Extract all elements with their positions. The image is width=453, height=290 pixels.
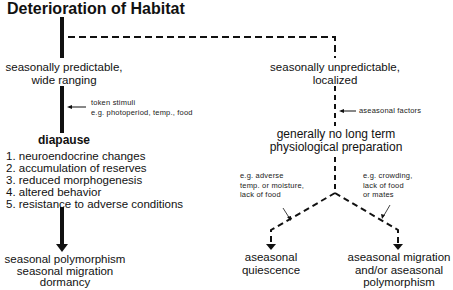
right-habitat-text: seasonally unpredictable, localized [268, 61, 402, 86]
split-left-dashed [271, 193, 335, 245]
aseasonal-arrowhead [339, 109, 344, 113]
feature-item: 5. resistance to adverse conditions [6, 198, 183, 210]
left-outcomes-text: seasonal polymorphism seasonal migration… [3, 254, 127, 289]
migration-outcome-text: aseasonal migration and/or aseasonal pol… [345, 251, 453, 289]
split-left-arrowhead [266, 244, 276, 250]
diapause-features-list: 1. neuroendocrine changes 2. accumulatio… [6, 150, 183, 210]
split-right-arrowhead [393, 244, 403, 250]
adverse-conditions-annotation: e.g. adverse temp. or moisture, lack of … [240, 171, 304, 200]
diapause-label: diapause [38, 134, 90, 147]
feature-item: 1. neuroendocrine changes [6, 150, 183, 162]
diagram-title: Deterioration of Habitat [7, 0, 185, 18]
right-response-text: generally no long term physiological pre… [258, 128, 414, 154]
outcome-arrowhead [56, 244, 68, 252]
dashed-branch-line [68, 37, 335, 58]
split-right-dashed [335, 193, 398, 245]
left-habitat-text: seasonally predictable, wide ranging [4, 61, 124, 86]
token-stimuli-arrowhead [67, 105, 72, 109]
quiescence-outcome-text: aseasonal quiescence [236, 251, 306, 276]
feature-item: 4. altered behavior [6, 186, 183, 198]
feature-item: 2. accumulation of reserves [6, 162, 183, 174]
aseasonal-factors-annotation: aseasonal factors [359, 107, 421, 115]
feature-item: 3. reduced morphogenesis [6, 174, 183, 186]
crowding-annotation: e.g. crowding, lack of food or mates [363, 171, 413, 200]
token-stimuli-annotation: token stimuli e.g. photoperiod, temp., f… [91, 99, 193, 118]
